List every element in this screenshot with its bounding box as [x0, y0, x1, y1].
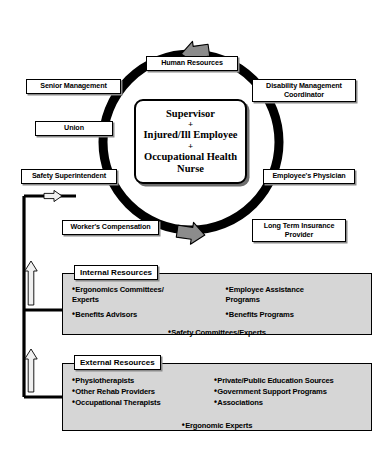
external-resource-item: Private/Public Education Sources — [214, 375, 371, 386]
center-line-occupational-health: Occupational Health — [144, 151, 237, 163]
internal-resource-item: Benefits Programs — [226, 309, 372, 320]
node-safety-superintendent[interactable]: Safety Superintendent — [21, 169, 117, 184]
node-human-resources-label: Human Resources — [161, 59, 223, 68]
node-union-label: Union — [64, 124, 84, 133]
arrow-up-outline-icon-internal — [25, 261, 37, 305]
internal-resources-panel: Ergonomics Committees/ Experts Benefits … — [62, 273, 372, 335]
center-plus-1: + — [188, 120, 193, 129]
external-resource-item: Government Support Programs — [214, 386, 371, 397]
arrow-right-outline-icon — [44, 190, 62, 201]
center-team-box: Supervisor + Injured/Ill Employee + Occu… — [134, 99, 247, 184]
node-disability-coordinator-label-line2: Coordinator — [284, 91, 324, 100]
node-safety-superintendent-label: Safety Superintendent — [32, 172, 106, 181]
diagram-canvas: Supervisor + Injured/Ill Employee + Occu… — [0, 0, 382, 451]
node-senior-management-label: Senior Management — [40, 82, 107, 91]
external-resource-item-footer: Ergonomic Experts — [182, 420, 252, 431]
external-resource-item: Occupational Therapists — [72, 397, 212, 408]
node-employees-physician-label: Employee's Physician — [272, 172, 345, 181]
center-line-nurse: Nurse — [177, 163, 204, 175]
external-resources-title-label: External Resources — [80, 358, 155, 367]
node-workers-compensation-label: Worker's Compensation — [70, 223, 150, 232]
external-resources-panel: Physiotherapists Other Rehab Providers O… — [62, 363, 372, 431]
node-long-term-insurance-provider[interactable]: Long Term Insurance Provider — [252, 219, 346, 242]
internal-resource-item: Benefits Advisors — [72, 309, 218, 320]
internal-resources-title: Internal Resources — [74, 265, 158, 280]
node-union[interactable]: Union — [35, 121, 113, 136]
center-plus-2: + — [188, 142, 193, 151]
node-long-term-insurance-label-line2: Provider — [285, 231, 313, 240]
arrow-up-outline-icon-external — [25, 349, 37, 392]
node-disability-management-coordinator[interactable]: Disability Management Coordinator — [252, 79, 356, 102]
external-resources-title: External Resources — [74, 355, 161, 370]
node-workers-compensation[interactable]: Worker's Compensation — [62, 220, 159, 235]
internal-resource-item: Employee Assistance Programs — [226, 284, 336, 305]
internal-resource-item: Ergonomics Committees/ Experts — [72, 284, 190, 305]
internal-resources-title-label: Internal Resources — [80, 268, 152, 277]
external-resource-item: Physiotherapists — [72, 375, 212, 386]
external-resource-item: Other Rehab Providers — [72, 386, 212, 397]
arrow-right-icon — [176, 220, 207, 246]
node-employees-physician[interactable]: Employee's Physician — [263, 169, 355, 184]
external-resource-item: Associations — [214, 397, 371, 408]
center-line-injured-employee: Injured/Ill Employee — [143, 129, 237, 141]
node-human-resources[interactable]: Human Resources — [146, 56, 238, 71]
internal-resource-item-footer: Safety Committees/Experts — [168, 327, 266, 338]
node-senior-management[interactable]: Senior Management — [26, 79, 121, 94]
